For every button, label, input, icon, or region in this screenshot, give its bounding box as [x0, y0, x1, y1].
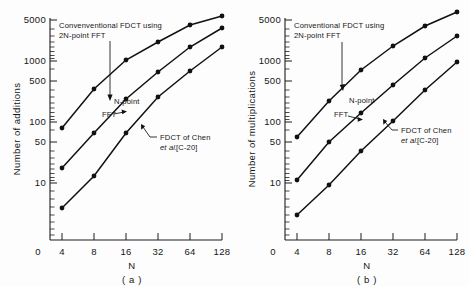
- panel-b-xtick-4: 4: [294, 246, 300, 257]
- data-point: [188, 23, 193, 28]
- panel-b-annot-conventional-line2: 2N-point FFT: [294, 31, 341, 40]
- panel-a-arrowhead-conventional: [107, 95, 112, 102]
- panel-a-x-ticks: [62, 233, 222, 240]
- data-point: [391, 44, 396, 49]
- panel-b-xtick-64: 64: [419, 246, 430, 257]
- panel-a-y-ticks: [50, 20, 57, 235]
- panel-a-ytick-500: 500: [29, 75, 46, 86]
- panel-a: 5000 1000 500 100 50 10 0 4 8 16 32 64 1…: [0, 0, 234, 286]
- panel-b-caption: ( b ): [357, 274, 377, 285]
- panel-b-xtick-32: 32: [387, 246, 398, 257]
- data-point: [391, 119, 396, 124]
- panel-a-annot-conventional-line1: Convenventional FDCT using: [59, 21, 162, 30]
- panel-b-annot-chen-line1: FDCT of Chen: [401, 126, 452, 135]
- panel-b-ytick-5000: 5000: [259, 14, 281, 25]
- panel-a-xtick-64: 64: [184, 246, 195, 257]
- data-point: [455, 34, 460, 39]
- panel-b-x-axis-label: N: [363, 260, 370, 271]
- data-point: [391, 83, 396, 88]
- panel-a-y-axis-label: Number of additions: [11, 83, 22, 176]
- panel-a-ytick-10: 10: [35, 177, 46, 188]
- panel-a-annot-npoint-line2: FFT: [102, 110, 117, 119]
- data-point: [60, 206, 65, 211]
- data-point: [156, 95, 161, 100]
- panel-b-y-axis-label: Number of multiplications: [246, 71, 257, 188]
- panel-b-xtick-128: 128: [449, 246, 466, 257]
- data-point: [60, 166, 65, 171]
- panel-b-x-ticks: [297, 233, 457, 240]
- data-point: [188, 69, 193, 74]
- data-point: [327, 140, 332, 145]
- panel-b-ytick-100: 100: [264, 116, 281, 127]
- panel-b: 5000 1000 500 100 50 10 0 4 8 16 32 64 1…: [235, 0, 469, 286]
- panel-a-ytick-1000: 1000: [24, 55, 46, 66]
- panel-a-caption: ( a ): [122, 274, 142, 285]
- data-point: [220, 26, 225, 31]
- panel-b-ytick-50: 50: [270, 136, 281, 147]
- panel-b-xtick-origin: 0: [270, 246, 276, 257]
- panel-b-annot-chen-ref: [C-20]: [417, 136, 439, 145]
- panel-a-plot: 5000 1000 500 100 50 10 0 4 8 16 32 64 1…: [0, 0, 234, 286]
- panel-a-arrowhead-npoint: [122, 110, 127, 115]
- panel-b-annot-npoint-line2: FFT: [334, 110, 349, 119]
- panel-a-xtick-4: 4: [59, 246, 65, 257]
- panel-a-ytick-100: 100: [29, 116, 46, 127]
- data-point: [188, 45, 193, 50]
- data-point: [359, 68, 364, 73]
- data-point: [423, 88, 428, 93]
- panel-a-xtick-origin: 0: [35, 246, 41, 257]
- data-point: [295, 178, 300, 183]
- data-point: [423, 24, 428, 29]
- panel-a-annot-chen-line1: FDCT of Chen: [160, 133, 211, 142]
- panel-a-ytick-50: 50: [35, 136, 46, 147]
- panel-b-ytick-500: 500: [264, 75, 281, 86]
- panel-a-annot-chen-ref: [C-20]: [176, 143, 198, 152]
- panel-b-plot: 5000 1000 500 100 50 10 0 4 8 16 32 64 1…: [235, 0, 469, 286]
- data-point: [359, 111, 364, 116]
- panel-b-series-n-point-fft: [295, 34, 460, 183]
- data-point: [220, 14, 225, 19]
- panel-a-annot-conventional-line2: 2N-point FFT: [59, 31, 106, 40]
- panel-a-xtick-32: 32: [152, 246, 163, 257]
- figure-container: 5000 1000 500 100 50 10 0 4 8 16 32 64 1…: [0, 0, 469, 286]
- data-point: [60, 126, 65, 131]
- data-point: [124, 131, 129, 136]
- data-point: [423, 56, 428, 61]
- panel-b-xtick-8: 8: [326, 246, 332, 257]
- data-point: [124, 58, 129, 63]
- panel-a-series-n-point-fft: [60, 26, 225, 171]
- data-point: [156, 70, 161, 75]
- data-point: [455, 10, 460, 15]
- data-point: [92, 131, 97, 136]
- data-point: [295, 213, 300, 218]
- panel-a-xtick-8: 8: [91, 246, 97, 257]
- data-point: [220, 45, 225, 50]
- panel-b-ytick-1000: 1000: [259, 55, 281, 66]
- data-point: [156, 40, 161, 45]
- data-point: [455, 60, 460, 65]
- panel-b-arrowhead-npoint: [358, 117, 363, 122]
- data-point: [295, 135, 300, 140]
- data-point: [359, 149, 364, 154]
- panel-a-annot-chen-italic: et al.: [160, 143, 177, 152]
- panel-b-xtick-16: 16: [355, 246, 366, 257]
- panel-a-ytick-5000: 5000: [24, 14, 46, 25]
- panel-b-annot-npoint-line1: N-point: [349, 96, 375, 105]
- panel-b-annot-conventional-line1: Conventional FDCT using: [294, 21, 384, 30]
- panel-a-x-axis-label: N: [128, 260, 135, 271]
- data-point: [327, 183, 332, 188]
- panel-b-ytick-10: 10: [270, 177, 281, 188]
- panel-a-xtick-16: 16: [120, 246, 131, 257]
- panel-b-annot-chen-italic: et al.: [401, 136, 418, 145]
- panel-a-annot-npoint-line1: N-point: [114, 97, 140, 106]
- panel-a-leader-chen: [143, 127, 157, 137]
- data-point: [327, 99, 332, 104]
- panel-a-xtick-128: 128: [214, 246, 231, 257]
- panel-b-y-ticks: [285, 20, 292, 235]
- data-point: [92, 87, 97, 92]
- data-point: [92, 174, 97, 179]
